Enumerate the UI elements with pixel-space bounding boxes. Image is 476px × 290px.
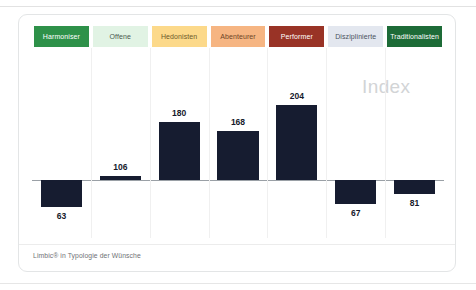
- bar-value-label: 106: [91, 163, 150, 172]
- category-band-row: HarmoniserOffeneHedonistenAbenteurerPerf…: [32, 26, 444, 47]
- column-separator: [209, 48, 210, 238]
- bar-value-label: 63: [32, 212, 91, 221]
- category-band-label: Disziplinierte: [335, 33, 376, 40]
- column-separator: [91, 48, 92, 238]
- bar-traditionalisten[interactable]: [394, 180, 435, 194]
- bar-harmoniser[interactable]: [41, 180, 82, 207]
- category-band-label: Offene: [110, 33, 132, 40]
- chart-plot-area: Index 631061801682046781: [32, 48, 444, 238]
- bar-value-label: 168: [209, 118, 268, 127]
- bar-value-label: 180: [150, 109, 209, 118]
- category-band-offene[interactable]: Offene: [93, 26, 148, 47]
- category-band-harmoniser[interactable]: Harmoniser: [34, 26, 89, 47]
- chart-card: HarmoniserOffeneHedonistenAbenteurerPerf…: [18, 14, 456, 272]
- bar-value-label: 67: [326, 209, 385, 218]
- index-watermark-label: Index: [362, 77, 410, 96]
- column-separator: [385, 48, 386, 238]
- bar-value-label: 204: [267, 92, 326, 101]
- bar-disziplinierte[interactable]: [335, 180, 376, 204]
- category-band-abenteurer[interactable]: Abenteurer: [211, 26, 266, 47]
- bar-performer[interactable]: [276, 105, 317, 180]
- bar-hedonisten[interactable]: [159, 122, 200, 180]
- footer-divider: [19, 244, 456, 245]
- category-band-label: Harmoniser: [43, 33, 80, 40]
- bar-offene[interactable]: [100, 176, 141, 180]
- category-band-disziplinierte[interactable]: Disziplinierte: [328, 26, 383, 47]
- column-separator: [267, 48, 268, 238]
- source-note: Limbic® in Typologie der Wünsche: [33, 253, 141, 260]
- category-band-label: Hedonisten: [161, 33, 197, 40]
- column-separator: [150, 48, 151, 238]
- category-band-label: Abenteurer: [220, 33, 256, 40]
- bar-value-label: 81: [385, 199, 444, 208]
- screenshot-canvas: HarmoniserOffeneHedonistenAbenteurerPerf…: [0, 0, 476, 290]
- bottom-divider: [0, 283, 476, 284]
- top-divider: [0, 6, 476, 7]
- category-band-traditionalisten[interactable]: Traditionalisten: [387, 26, 442, 47]
- bar-abenteurer[interactable]: [217, 131, 258, 180]
- category-band-hedonisten[interactable]: Hedonisten: [152, 26, 207, 47]
- category-band-label: Traditionalisten: [390, 33, 439, 40]
- category-band-label: Performer: [281, 33, 313, 40]
- category-band-performer[interactable]: Performer: [269, 26, 324, 47]
- baseline-axis: [32, 180, 444, 181]
